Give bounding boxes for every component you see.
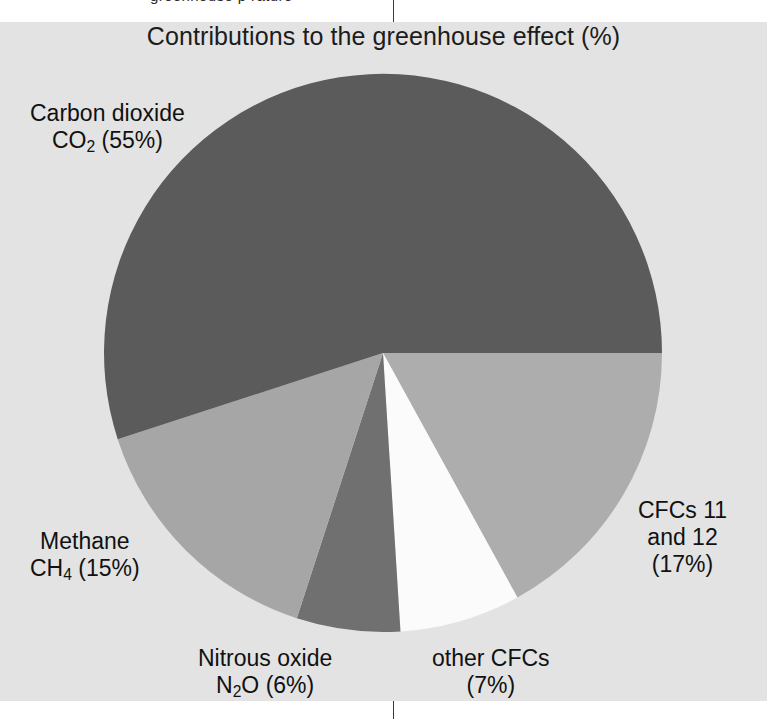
pie-label-methane-name: Methane <box>30 528 140 555</box>
column-rule-bottom <box>393 701 394 719</box>
pie-label-nitrous-oxide-name: Nitrous oxide <box>198 645 332 672</box>
pie-label-other-cfcs-name: other CFCs <box>432 645 550 672</box>
ch4-formula-prefix: CH <box>30 555 63 581</box>
n2o-formula-suffix: O (6%) <box>241 672 314 698</box>
page-bottom-bleed <box>0 701 767 719</box>
pie-label-cfc-11-12-value: (17%) <box>638 551 727 578</box>
pie-label-carbon-dioxide-formula: CO2 (55%) <box>30 127 185 160</box>
figure-page: greenhouse p rature Contributions to the… <box>0 0 767 719</box>
pie-label-other-cfcs-value: (7%) <box>432 672 550 699</box>
co2-formula-prefix: CO <box>52 127 87 153</box>
pie-label-other-cfcs: other CFCs (7%) <box>432 645 550 699</box>
pie-label-cfc-11-12-line2: and 12 <box>638 524 727 551</box>
pie-label-carbon-dioxide-name: Carbon dioxide <box>30 100 185 127</box>
pie-label-carbon-dioxide: Carbon dioxide CO2 (55%) <box>30 100 185 160</box>
co2-formula-suffix: (55%) <box>95 127 163 153</box>
pie-label-methane-formula: CH4 (15%) <box>30 555 140 588</box>
ch4-formula-suffix: (15%) <box>72 555 140 581</box>
co2-formula-subscript: 2 <box>86 138 95 155</box>
ch4-formula-subscript: 4 <box>63 566 72 583</box>
pie-label-cfc-11-12: CFCs 11 and 12 (17%) <box>638 497 727 578</box>
pie-label-cfc-11-12-line1: CFCs 11 <box>638 497 727 524</box>
pie-label-nitrous-oxide: Nitrous oxide N2O (6%) <box>198 645 332 705</box>
pie-label-methane: Methane CH4 (15%) <box>30 528 140 588</box>
n2o-formula-prefix: N <box>216 672 233 698</box>
